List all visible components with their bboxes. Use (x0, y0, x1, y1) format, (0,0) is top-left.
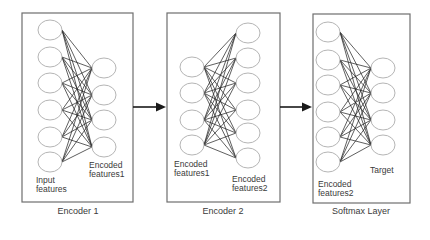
neuron-node (316, 22, 340, 42)
neuron-node (38, 47, 62, 67)
input-features-label: Input features (36, 176, 67, 194)
neuron-node (316, 152, 340, 172)
flow-arrows (133, 103, 312, 112)
encoder1-caption: Encoder 1 (18, 206, 138, 216)
neuron-node (371, 58, 395, 78)
neuron-node (236, 73, 260, 93)
encoded-features2-label: Encoded features2 (232, 175, 267, 193)
neuron-node (371, 135, 395, 155)
neuron-node (92, 58, 116, 78)
arrow-head-icon (302, 103, 312, 112)
neuron-node (92, 137, 116, 157)
connection-line (204, 58, 236, 145)
target-label: Target (370, 166, 394, 175)
neuron-node (180, 135, 204, 155)
neuron-node (38, 100, 62, 120)
connection-line (62, 30, 92, 120)
neuron-node (38, 127, 62, 147)
neuron-node (316, 127, 340, 147)
neuron-node (371, 110, 395, 130)
neuron-node (38, 73, 62, 93)
neuron-node (236, 23, 260, 43)
connection-line (340, 85, 371, 93)
connection-line (62, 147, 92, 162)
neuron-node (316, 50, 340, 70)
neuron-node (92, 85, 116, 105)
arrow-head-icon (156, 103, 166, 112)
neuron-node (236, 100, 260, 120)
neuron-node (180, 110, 204, 130)
neuron-node (236, 148, 260, 168)
encoded-features1-label: Encoded features1 (174, 160, 209, 178)
softmax-layer-caption: Softmax Layer (301, 206, 421, 216)
encoded-features2-label: Encoded features2 (318, 180, 353, 198)
neuron-node (236, 123, 260, 143)
neuron-node (92, 110, 116, 130)
encoder2-caption: Encoder 2 (163, 206, 283, 216)
neuron-node (316, 102, 340, 122)
neuron-node (180, 57, 204, 77)
neuron-node (38, 20, 62, 40)
encoded-features1-label: Encoded features1 (89, 161, 124, 179)
neuron-node (38, 152, 62, 172)
neuron-node (371, 83, 395, 103)
connection-line (204, 145, 236, 158)
neuron-node (236, 48, 260, 68)
neuron-node (180, 83, 204, 103)
connection-line (340, 60, 371, 68)
neuron-node (316, 75, 340, 95)
